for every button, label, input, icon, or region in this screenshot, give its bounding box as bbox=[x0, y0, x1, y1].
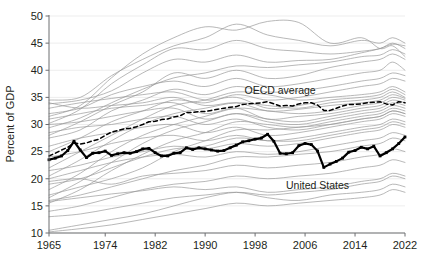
series-marker bbox=[129, 152, 132, 155]
series-marker bbox=[229, 146, 232, 149]
series-marker bbox=[285, 152, 288, 155]
series-marker bbox=[66, 149, 69, 152]
series-marker bbox=[54, 157, 57, 160]
series-marker bbox=[204, 148, 207, 151]
series-marker bbox=[366, 148, 369, 151]
series-marker bbox=[210, 149, 213, 152]
series-marker bbox=[304, 142, 307, 145]
series-marker bbox=[391, 148, 394, 151]
series-marker bbox=[322, 166, 325, 169]
series-marker bbox=[397, 142, 400, 145]
series-marker bbox=[98, 151, 101, 154]
y-tick-label: 50 bbox=[31, 10, 43, 22]
series-marker bbox=[379, 155, 382, 158]
x-tick-label: 1965 bbox=[37, 239, 61, 251]
series-marker bbox=[347, 151, 350, 154]
series-marker bbox=[335, 160, 338, 163]
series-marker bbox=[110, 154, 113, 157]
series-marker bbox=[254, 138, 257, 141]
series-marker bbox=[372, 145, 375, 148]
series-marker bbox=[179, 151, 182, 154]
series-marker bbox=[135, 150, 138, 153]
chart-container: 101520253035404550 196519741982199019982… bbox=[0, 0, 428, 264]
series-marker bbox=[235, 144, 238, 147]
series-marker bbox=[141, 148, 144, 151]
series-marker bbox=[60, 155, 63, 158]
series-marker bbox=[329, 163, 332, 166]
series-marker bbox=[341, 157, 344, 160]
y-tick-label: 30 bbox=[31, 118, 43, 130]
x-tick-label: 2014 bbox=[343, 239, 367, 251]
x-tick-label: 1990 bbox=[193, 239, 217, 251]
y-axis-title: Percent of GDP bbox=[4, 85, 16, 162]
series-marker bbox=[260, 137, 263, 140]
series-marker bbox=[91, 152, 94, 155]
series-marker bbox=[216, 150, 219, 153]
y-tick-label: 35 bbox=[31, 91, 43, 103]
y-tick-label: 15 bbox=[31, 200, 43, 212]
annotation-oecd-average: OECD average bbox=[244, 84, 315, 96]
x-tick-label: 1974 bbox=[93, 239, 117, 251]
series-marker bbox=[266, 133, 269, 136]
series-marker bbox=[148, 147, 151, 150]
x-tick-label: 2022 bbox=[393, 239, 417, 251]
y-tick-label: 10 bbox=[31, 227, 43, 239]
y-tick-label: 45 bbox=[31, 37, 43, 49]
series-marker bbox=[291, 151, 294, 154]
series-marker bbox=[73, 140, 76, 143]
series-marker bbox=[385, 151, 388, 154]
series-marker bbox=[222, 149, 225, 152]
y-tick-label: 25 bbox=[31, 145, 43, 157]
series-marker bbox=[404, 136, 407, 139]
series-marker bbox=[116, 152, 119, 155]
series-marker bbox=[354, 149, 357, 152]
x-tick-label: 2006 bbox=[293, 239, 317, 251]
series-marker bbox=[185, 146, 188, 149]
series-marker bbox=[279, 152, 282, 155]
y-tick-label: 20 bbox=[31, 173, 43, 185]
series-marker bbox=[197, 146, 200, 149]
y-tick-label: 40 bbox=[31, 64, 43, 76]
annotation-united-states: United States bbox=[286, 179, 349, 191]
series-marker bbox=[360, 146, 363, 149]
series-marker bbox=[166, 155, 169, 158]
series-marker bbox=[191, 148, 194, 151]
series-marker bbox=[123, 151, 126, 154]
series-marker bbox=[272, 140, 275, 143]
series-marker bbox=[85, 156, 88, 159]
series-marker bbox=[316, 150, 319, 153]
series-marker bbox=[297, 144, 300, 147]
series-marker bbox=[79, 149, 82, 152]
series-marker bbox=[173, 152, 176, 155]
line-chart: 101520253035404550 196519741982199019982… bbox=[0, 0, 428, 264]
series-marker bbox=[104, 150, 107, 153]
series-marker bbox=[247, 139, 250, 142]
x-tick-label: 1998 bbox=[243, 239, 267, 251]
x-tick-label: 1982 bbox=[143, 239, 167, 251]
series-marker bbox=[154, 151, 157, 154]
series-marker bbox=[241, 140, 244, 143]
series-marker bbox=[310, 143, 313, 146]
series-marker bbox=[160, 155, 163, 158]
